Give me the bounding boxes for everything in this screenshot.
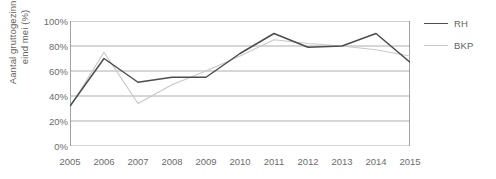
y-axis-tick-labels: 0%20%40%60%80%100%: [34, 0, 68, 179]
plot-area: [70, 21, 410, 146]
y-axis-tick-label: 100%: [44, 16, 68, 27]
x-axis-tick-label: 2007: [127, 156, 148, 167]
y-axis-tick-label: 40%: [49, 91, 68, 102]
chart-svg: [70, 21, 410, 146]
legend-label: RH: [454, 18, 468, 29]
series-line-rh: [70, 34, 410, 107]
y-axis-title-line-1: Aantal gruttogezinnen: [7, 0, 19, 84]
legend-label: BKP: [454, 40, 474, 51]
x-axis-tick-labels: 2005200620072008200920102011201220132014…: [70, 150, 410, 170]
chart-legend: RHBKP: [424, 12, 494, 56]
x-axis-tick-label: 2008: [161, 156, 182, 167]
x-axis-tick-label: 2010: [229, 156, 250, 167]
y-axis-tick-label: 20%: [49, 116, 68, 127]
x-axis-tick-label: 2014: [365, 156, 386, 167]
x-axis-tick-label: 2012: [297, 156, 318, 167]
series-line-bkp: [70, 40, 410, 108]
y-axis-tick-label: 60%: [49, 66, 68, 77]
x-axis-tick-label: 2005: [59, 156, 80, 167]
legend-swatch-rh-icon: [424, 23, 448, 24]
legend-item-rh[interactable]: RH: [424, 12, 494, 34]
x-axis-tick-label: 2006: [93, 156, 114, 167]
x-axis-tick-label: 2009: [195, 156, 216, 167]
x-axis-tick-label: 2013: [331, 156, 352, 167]
y-axis-tick-label: 80%: [49, 41, 68, 52]
y-axis-tick-label: 0%: [54, 141, 68, 152]
y-axis-title: Aantal gruttogezinnen eind mei (%): [2, 0, 36, 102]
y-axis-title-line-2: eind mei (%): [19, 10, 31, 65]
legend-swatch-bkp-icon: [424, 45, 448, 46]
x-axis-tick-label: 2015: [399, 156, 420, 167]
x-axis-tick-label: 2011: [264, 156, 284, 167]
chart-container: Aantal gruttogezinnen eind mei (%) 0%20%…: [0, 0, 496, 179]
legend-item-bkp[interactable]: BKP: [424, 34, 494, 56]
